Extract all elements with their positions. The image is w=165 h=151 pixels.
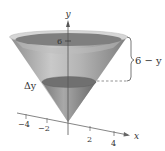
x-tick-label-neg2: −2 bbox=[38, 124, 50, 133]
slice-disk bbox=[42, 77, 96, 88]
slice-thickness-label: Δy bbox=[24, 80, 37, 91]
x-tick-label-2: 2 bbox=[87, 135, 92, 144]
x-axis bbox=[17, 113, 130, 137]
height-label: 6 − y bbox=[135, 55, 162, 66]
y-axis-arrow-icon bbox=[66, 20, 70, 27]
cone-lower-part bbox=[42, 82, 96, 122]
y-axis-label: y bbox=[65, 9, 72, 19]
x-axis-arrow-icon bbox=[124, 132, 131, 137]
cone-figure: y 6 6 − y Δy −4 −2 2 4 x bbox=[0, 0, 165, 151]
x-axis-label: x bbox=[134, 131, 139, 141]
liquid-top-disk bbox=[16, 33, 122, 46]
x-tick-label-4: 4 bbox=[111, 139, 116, 148]
y-tick-label-6: 6 bbox=[57, 37, 62, 46]
height-bracket bbox=[127, 37, 134, 81]
x-tick-label-neg4: −4 bbox=[18, 120, 30, 129]
cone-diagram-svg: y 6 6 − y Δy −4 −2 2 4 x bbox=[0, 0, 165, 151]
